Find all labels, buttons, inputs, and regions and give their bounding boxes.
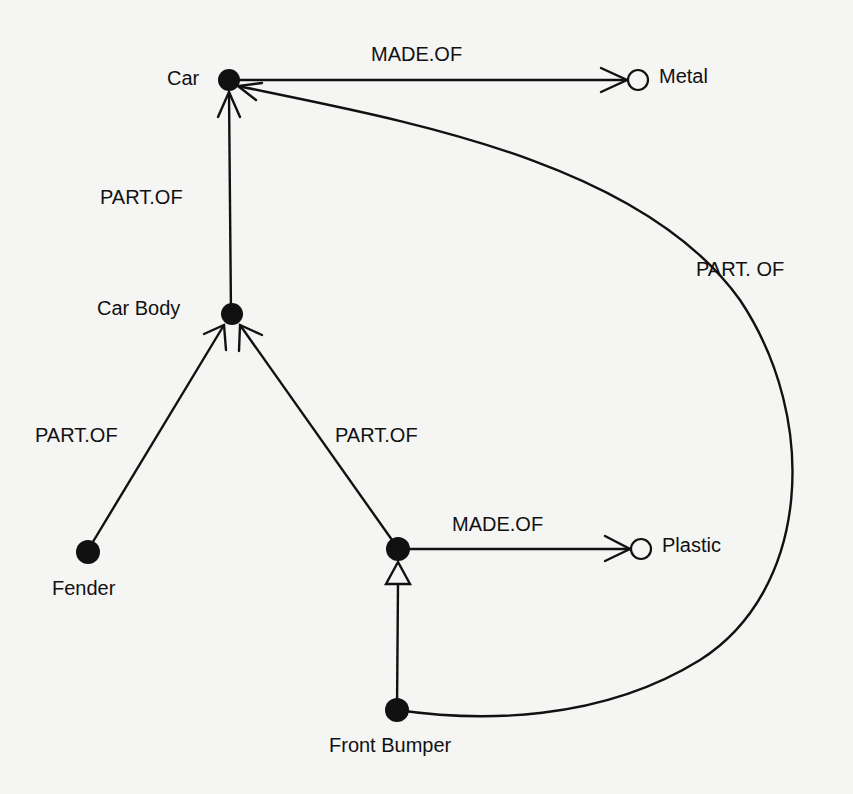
node-front-bumper (385, 698, 409, 722)
edge-front-bumper-part-of-car (238, 83, 792, 716)
edge-front-bumper-isa-mid (386, 562, 410, 710)
node-car-body (221, 303, 243, 325)
node-label-fender: Fender (52, 578, 115, 598)
edge-label-mid-part-of-car-body: PART.OF (335, 425, 418, 445)
edge-label-fender-part-of-car-body: PART.OF (35, 425, 118, 445)
edge-label-car-made-of-metal: MADE.OF (371, 44, 462, 64)
node-fender (76, 540, 100, 564)
edge-label-mid-made-of-plastic: MADE.OF (452, 514, 543, 534)
node-label-plastic: Plastic (662, 535, 721, 555)
node-label-car-body: Car Body (97, 298, 180, 318)
node-label-metal: Metal (659, 66, 708, 86)
node-label-car: Car (167, 68, 199, 88)
node-car (218, 69, 240, 91)
node-label-front-bumper: Front Bumper (329, 735, 451, 755)
semantic-network-diagram (0, 0, 853, 794)
edge-mid-made-of-plastic (398, 536, 630, 561)
edge-label-front-bumper-part-of-car: PART. OF (696, 259, 784, 279)
edge-car-made-of-metal (229, 68, 627, 92)
edge-car-body-part-of-car (218, 92, 240, 314)
node-unlabeled-part (386, 537, 410, 561)
arrowhead-icon (238, 83, 262, 100)
edge-label-car-body-part-of-car: PART.OF (100, 187, 183, 207)
node-metal (628, 70, 648, 90)
hollow-triangle-arrowhead-icon (386, 562, 410, 584)
node-plastic (631, 539, 651, 559)
